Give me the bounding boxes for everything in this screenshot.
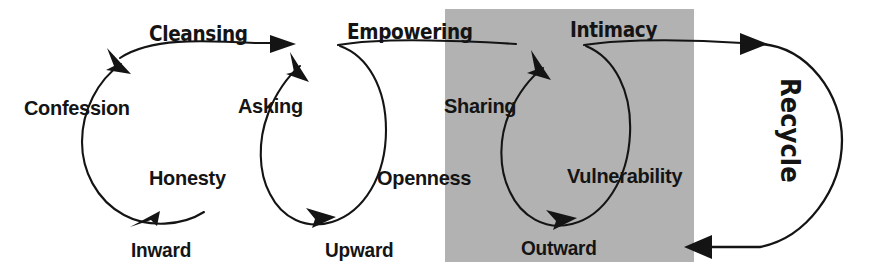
phase-label-cleansing: Cleansing xyxy=(149,24,248,45)
phase-label-intimacy: Intimacy xyxy=(570,20,657,41)
node-label-asking: Asking xyxy=(238,95,303,116)
node-label-confession: Confession xyxy=(24,97,130,118)
transition-arrowhead-cleansing xyxy=(270,35,296,53)
node-label-honesty: Honesty xyxy=(149,167,226,188)
cycle-arc-upward xyxy=(261,46,386,224)
direction-label-outward: Outward xyxy=(521,238,597,258)
cycle-arc-inward xyxy=(82,64,204,224)
phase-label-empowering: Empowering xyxy=(347,22,473,43)
recycle-label: Recycle xyxy=(775,78,806,183)
cycle-arrowhead-inward-top xyxy=(106,48,131,74)
node-label-openness: Openness xyxy=(377,167,471,188)
direction-label-inward: Inward xyxy=(131,240,191,260)
node-label-vulnerability: Vulnerability xyxy=(567,165,682,186)
node-label-sharing: Sharing xyxy=(444,95,516,116)
diagram-canvas: Cleansing Empowering Intimacy Confession… xyxy=(0,0,879,276)
direction-label-upward: Upward xyxy=(325,240,394,260)
